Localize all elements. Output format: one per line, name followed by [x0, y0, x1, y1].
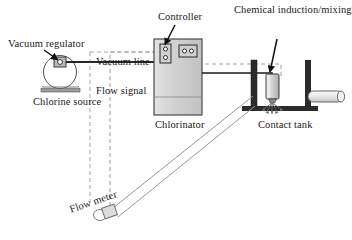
label-flow-signal: Flow signal	[96, 85, 146, 96]
leader-chemical-unit	[270, 39, 277, 72]
label-chlorinator: Chlorinator	[155, 119, 205, 130]
label-contact-tank: Contact tank	[258, 119, 313, 130]
label-chlorine-source: Chlorine source	[33, 96, 89, 107]
vacuum-regulator-knob-icon	[58, 60, 63, 65]
label-vacuum-regulator: Vacuum regulator	[8, 38, 85, 49]
diagram-canvas: Vacuum regulator Chlorine source Vacuum …	[0, 0, 352, 240]
outlet-pipe-group	[308, 91, 345, 102]
label-chemical-induction-mixing-unit: Chemical induction/mixing unit	[234, 4, 338, 15]
flow-meter-body	[102, 204, 118, 219]
flow-meter-group	[94, 204, 118, 220]
controller-gauge-left-icon	[183, 49, 187, 53]
controller-panel-horizontal	[179, 45, 197, 57]
chlorinator-to-mixing-unit	[202, 73, 272, 74]
label-vacuum-line: Vacuum line	[96, 56, 150, 67]
contact-tank-wall-left	[251, 60, 257, 106]
mixing-unit-nozzle	[269, 99, 277, 103]
outlet-pipe-cap	[337, 91, 344, 102]
contact-tank-group	[242, 60, 318, 111]
chlorine-source-base	[41, 89, 80, 93]
controller-gauge-right-icon	[190, 49, 194, 53]
controller-indicator-top-icon	[164, 47, 168, 51]
mixing-unit-body	[266, 74, 279, 99]
controller-indicator-bottom-icon	[164, 56, 168, 60]
label-controller: Controller	[158, 11, 202, 22]
